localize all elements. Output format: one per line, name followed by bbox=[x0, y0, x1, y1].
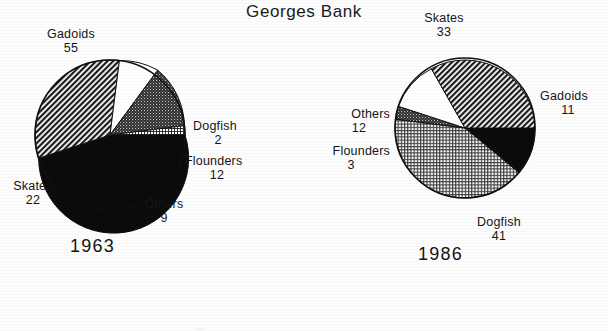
label-1986-dogfish-value: 41 bbox=[463, 230, 535, 244]
label-1963-others: Others 9 bbox=[133, 198, 195, 225]
label-1963-flounders: Flounders 12 bbox=[185, 155, 271, 182]
label-1986-gadoids: Gadoids 11 bbox=[540, 90, 608, 117]
label-1986-skates-value: 33 bbox=[408, 26, 480, 40]
label-1986-others: Others 12 bbox=[328, 108, 390, 135]
bottom-caption: ... bbox=[196, 322, 204, 331]
label-1963-dogfish-value: 2 bbox=[193, 134, 243, 148]
label-1963-others-name: Others bbox=[145, 197, 184, 211]
label-1963-skates: Skates 22 bbox=[2, 180, 64, 207]
label-1986-others-name: Others bbox=[351, 107, 390, 121]
label-1963-flounders-name: Flounders bbox=[185, 154, 242, 168]
label-1986-flounders-value: 3 bbox=[312, 159, 390, 173]
pie-panel-1986: Skates 33 Gadoids 11 Others 12 Flounders… bbox=[308, 0, 608, 290]
label-1986-dogfish-name: Dogfish bbox=[477, 215, 521, 229]
year-label-1986: 1986 bbox=[418, 244, 463, 265]
label-1963-gadoids-name: Gadoids bbox=[47, 27, 95, 41]
pie-panel-1963: Gadoids 55 Dogfish 2 Flounders 12 Others… bbox=[0, 0, 300, 280]
label-1963-flounders-value: 12 bbox=[185, 169, 249, 183]
label-1986-skates: Skates 33 bbox=[408, 12, 480, 39]
label-1986-gadoids-value: 11 bbox=[540, 104, 596, 118]
figure-canvas: Georges Bank bbox=[0, 0, 608, 331]
label-1963-gadoids: Gadoids 55 bbox=[28, 28, 114, 55]
label-1963-skates-name: Skates bbox=[13, 179, 52, 193]
label-1963-others-value: 9 bbox=[133, 212, 195, 226]
label-1986-flounders-name: Flounders bbox=[333, 144, 390, 158]
year-label-1963: 1963 bbox=[70, 236, 115, 257]
label-1963-gadoids-value: 55 bbox=[28, 42, 114, 56]
label-1986-gadoids-name: Gadoids bbox=[540, 89, 588, 103]
label-1986-skates-name: Skates bbox=[424, 11, 463, 25]
label-1986-flounders: Flounders 3 bbox=[312, 145, 390, 172]
label-1963-dogfish: Dogfish 2 bbox=[193, 120, 263, 147]
label-1986-dogfish: Dogfish 41 bbox=[463, 216, 535, 243]
label-1963-dogfish-name: Dogfish bbox=[193, 119, 237, 133]
label-1986-others-value: 12 bbox=[328, 122, 390, 136]
label-1963-skates-value: 22 bbox=[2, 194, 64, 208]
